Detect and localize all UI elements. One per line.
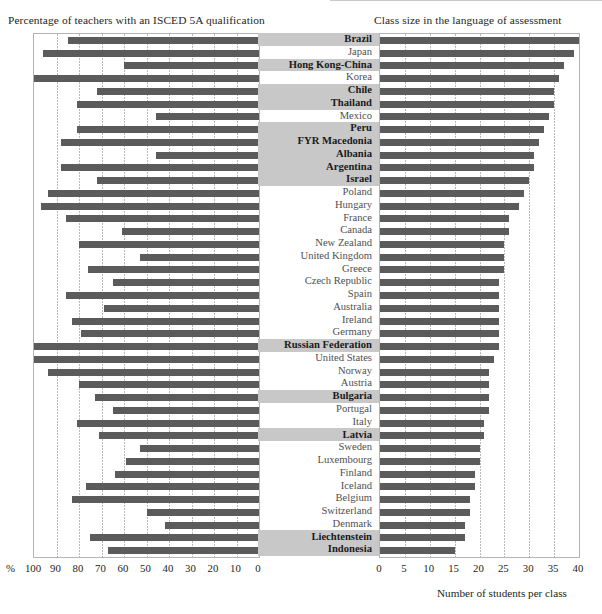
country-label: New Zealand <box>258 237 379 250</box>
country-label: United Kingdom <box>258 250 379 263</box>
country-label-text: Germany <box>333 327 372 338</box>
right-bar <box>380 177 529 184</box>
country-label-text: FYR Macedonia <box>298 136 372 147</box>
country-label: Indonesia <box>258 543 379 556</box>
country-label-text: Greece <box>342 264 372 275</box>
right-bar-series <box>380 34 579 557</box>
country-label-text: Bulgaria <box>333 391 372 402</box>
country-label-text: Switzerland <box>321 506 372 517</box>
right-bar <box>380 356 494 363</box>
country-label-text: Japan <box>348 47 372 58</box>
country-label: Portugal <box>258 403 379 416</box>
right-chart-title: Class size in the language of assessment <box>374 14 561 26</box>
left-bar <box>97 88 259 95</box>
country-label-text: Poland <box>343 187 372 198</box>
left-bar <box>126 458 259 465</box>
country-label: Bulgaria <box>258 390 379 403</box>
right-bar <box>380 203 519 210</box>
country-label: Hungary <box>258 199 379 212</box>
country-label: Austria <box>258 377 379 390</box>
left-axis-unit: % <box>6 562 15 574</box>
right-bar <box>380 113 549 120</box>
country-label: Poland <box>258 186 379 199</box>
country-label: Switzerland <box>258 505 379 518</box>
country-label-text: Thailand <box>331 98 372 109</box>
country-label: Greece <box>258 263 379 276</box>
right-bar <box>380 420 484 427</box>
figure-container: Percentage of teachers with an ISCED 5A … <box>0 0 602 614</box>
country-label-text: United States <box>315 353 372 364</box>
country-label: Latvia <box>258 428 379 441</box>
right-plot-area <box>379 33 580 558</box>
country-label: Denmark <box>258 518 379 531</box>
country-label-text: Russian Federation <box>284 340 372 351</box>
left-bar-series <box>34 34 259 557</box>
country-label-text: Albania <box>336 149 372 160</box>
right-bar <box>380 215 509 222</box>
right-bar <box>380 445 480 452</box>
country-label: Brazil <box>258 33 379 46</box>
country-label: Luxembourg <box>258 454 379 467</box>
left-bar <box>156 152 260 159</box>
country-label: Thailand <box>258 97 379 110</box>
country-label-text: Australia <box>333 302 372 313</box>
country-label-text: Chile <box>348 85 372 96</box>
right-bar <box>380 330 499 337</box>
right-bar <box>380 483 475 490</box>
right-bar <box>380 37 579 44</box>
right-bar <box>380 369 489 376</box>
country-label-text: Denmark <box>333 519 372 530</box>
left-bar <box>140 254 259 261</box>
country-label-text: New Zealand <box>315 238 372 249</box>
right-bar <box>380 534 465 541</box>
country-label: Argentina <box>258 161 379 174</box>
country-label: Liechtenstein <box>258 530 379 543</box>
country-label-text: Hungary <box>335 200 372 211</box>
right-bar <box>380 88 554 95</box>
country-label-text: Hong Kong-China <box>289 60 372 71</box>
left-bar <box>79 381 259 388</box>
right-bar <box>380 126 544 133</box>
left-bar <box>99 432 259 439</box>
left-axis: % 1009080706050403020100 <box>0 562 300 578</box>
country-label-text: Canada <box>340 225 372 236</box>
left-bar <box>66 215 260 222</box>
right-axis-tick: 40 <box>563 562 593 574</box>
left-bar <box>108 547 259 554</box>
country-label: Russian Federation <box>258 339 379 352</box>
left-bar <box>48 369 260 376</box>
left-bar <box>34 343 259 350</box>
right-bar <box>380 164 534 171</box>
country-label: Canada <box>258 224 379 237</box>
left-bar <box>156 113 260 120</box>
country-label-text: France <box>343 213 372 224</box>
country-label: United States <box>258 352 379 365</box>
left-bar <box>124 62 259 69</box>
country-label: Korea <box>258 71 379 84</box>
country-label-text: Mexico <box>340 111 372 122</box>
country-label: Belgium <box>258 492 379 505</box>
right-bar <box>380 407 489 414</box>
right-bar <box>380 522 465 529</box>
country-label-column: BrazilJapanHong Kong-ChinaKoreaChileThai… <box>258 33 379 556</box>
country-label-text: United Kingdom <box>300 251 372 262</box>
right-bar <box>380 458 480 465</box>
country-label-text: Ireland <box>342 315 372 326</box>
country-label: Sweden <box>258 441 379 454</box>
left-bar <box>104 305 259 312</box>
country-label-text: Italy <box>353 417 372 428</box>
left-bar <box>88 266 259 273</box>
right-bar <box>380 343 499 350</box>
country-label-text: Portugal <box>336 404 372 415</box>
left-bar <box>43 50 259 57</box>
right-bar <box>380 139 539 146</box>
country-label-text: Peru <box>350 123 372 134</box>
right-bar <box>380 394 489 401</box>
right-bar <box>380 228 509 235</box>
right-bar <box>380 305 499 312</box>
country-label: Norway <box>258 365 379 378</box>
country-label: Australia <box>258 301 379 314</box>
left-bar <box>72 318 259 325</box>
right-bar <box>380 266 504 273</box>
left-bar <box>72 496 259 503</box>
